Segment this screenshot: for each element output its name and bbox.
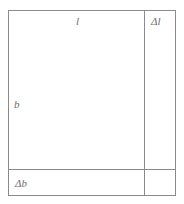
- label-breadth-b: b: [14, 99, 20, 110]
- label-length-l: l: [76, 16, 79, 27]
- label-delta-length: Δl: [151, 16, 161, 27]
- rectangle-increment-diagram: [0, 0, 184, 204]
- label-delta-breadth: Δb: [15, 178, 27, 189]
- outer-rectangle: [9, 11, 176, 196]
